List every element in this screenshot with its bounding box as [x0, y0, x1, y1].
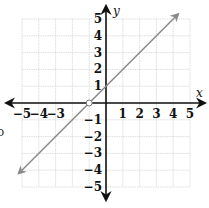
- svg-text:1: 1: [119, 107, 127, 121]
- svg-text:x: x: [196, 86, 203, 100]
- svg-text:−3: −3: [46, 107, 64, 121]
- svg-text:5: 5: [94, 12, 102, 26]
- svg-text:5: 5: [186, 107, 194, 121]
- svg-text:2: 2: [94, 62, 102, 76]
- annotations: [86, 100, 92, 106]
- svg-text:−2: −2: [84, 130, 102, 144]
- svg-text:4: 4: [169, 107, 177, 121]
- svg-text:−1: −1: [84, 113, 102, 127]
- svg-text:−4: −4: [30, 107, 48, 121]
- svg-text:4: 4: [94, 29, 102, 43]
- svg-text:3: 3: [94, 46, 102, 60]
- svg-text:−5: −5: [13, 107, 31, 121]
- svg-text:2: 2: [135, 107, 143, 121]
- svg-text:−5: −5: [84, 180, 102, 194]
- svg-text:3: 3: [152, 107, 160, 121]
- cropped-glyph: o: [0, 125, 4, 139]
- svg-text:y: y: [112, 4, 120, 18]
- svg-text:−3: −3: [84, 146, 102, 160]
- coordinate-plane: xy −5−4−31234554321−1−2−3−4−5: [0, 0, 209, 208]
- axes: xy: [6, 4, 205, 200]
- svg-text:−4: −4: [84, 163, 102, 177]
